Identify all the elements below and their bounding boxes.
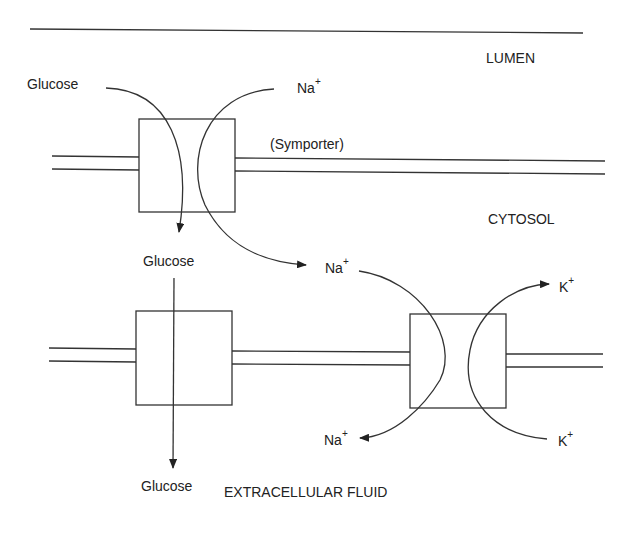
symporter-label: (Symporter) (270, 137, 344, 151)
na-influx-arrow (198, 89, 306, 265)
apical-membrane-left-outer (52, 156, 139, 157)
basolateral-membrane-left-outer (49, 348, 136, 349)
na-cytosol-label: Na+ (325, 259, 349, 275)
k-cytosol-label: K+ (559, 278, 574, 294)
lumen-boundary-line (30, 29, 583, 33)
k-extracellular-label: K+ (558, 432, 573, 448)
glucose-cytosol-label: Glucose (143, 254, 194, 268)
diagram-canvas: LUMEN CYTOSOL EXTRACELLULAR FLUID (Sympo… (0, 0, 638, 535)
region-label-lumen: LUMEN (486, 51, 535, 65)
glucose-efflux-arrow (173, 278, 174, 468)
symporter-box (139, 119, 235, 212)
na-lumen-label: Na+ (297, 79, 321, 95)
region-label-extracellular-fluid: EXTRACELLULAR FLUID (224, 485, 387, 499)
glucose-influx-arrow (106, 88, 183, 232)
na-k-pump-box (410, 314, 506, 408)
apical-membrane-left-inner (52, 169, 139, 170)
glucose-extracellular-label: Glucose (141, 479, 192, 493)
glucose-lumen-label: Glucose (27, 77, 78, 91)
apical-membrane-right-outer (235, 158, 605, 161)
na-efflux-arrow (359, 271, 445, 438)
na-extracellular-label: Na+ (324, 431, 348, 447)
basolateral-membrane-mid-outer (232, 351, 410, 352)
region-label-cytosol: CYTOSOL (488, 212, 555, 226)
basolateral-membrane-left-inner (49, 361, 136, 362)
glucose-uniporter-box (136, 311, 232, 405)
k-influx-arrow (468, 284, 549, 439)
apical-membrane-right-inner (235, 171, 605, 174)
basolateral-membrane-mid-inner (232, 364, 410, 365)
